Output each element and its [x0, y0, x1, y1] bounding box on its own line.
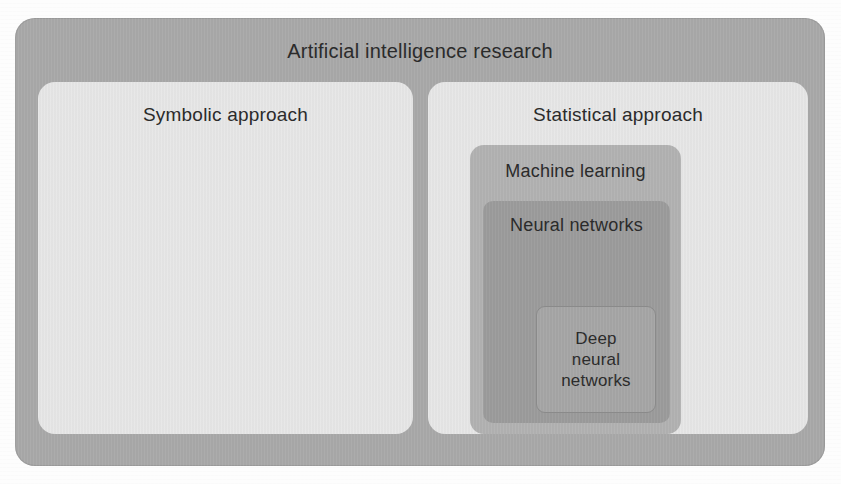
deep-neural-networks-label: Deep neural networks — [561, 328, 631, 392]
neural-networks-box: Neural networks Deep neural networks — [483, 201, 670, 423]
statistical-approach-box: Statistical approach Machine learning Ne… — [428, 82, 808, 434]
ai-research-label: Artificial intelligence research — [15, 40, 825, 63]
neural-networks-label: Neural networks — [483, 215, 670, 236]
deep-neural-networks-box: Deep neural networks — [536, 306, 656, 413]
statistical-approach-label: Statistical approach — [428, 104, 808, 126]
texture-overlay — [38, 82, 413, 434]
symbolic-approach-box: Symbolic approach — [38, 82, 413, 434]
dnn-label-line-1: Deep — [575, 329, 616, 348]
ai-research-box: Artificial intelligence research Symboli… — [15, 18, 825, 466]
dnn-label-line-2: neural — [572, 350, 620, 369]
diagram-canvas: Artificial intelligence research Symboli… — [0, 0, 841, 484]
dnn-label-line-3: networks — [561, 371, 631, 390]
symbolic-approach-label: Symbolic approach — [38, 104, 413, 126]
machine-learning-label: Machine learning — [470, 161, 681, 182]
machine-learning-box: Machine learning Neural networks Deep ne… — [470, 145, 681, 434]
